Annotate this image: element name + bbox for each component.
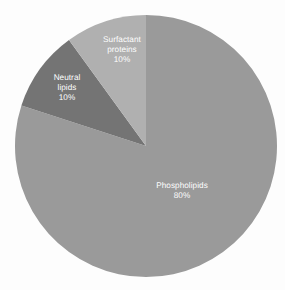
- pie-chart-canvas: [0, 0, 285, 290]
- pie-chart: Phospholipids 80% Neutral lipids 10% Sur…: [0, 0, 285, 290]
- pie-slice-group: [15, 15, 277, 277]
